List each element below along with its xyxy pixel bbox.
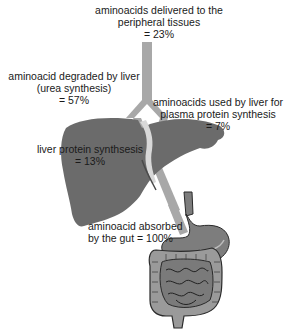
label-percent: = 57% [4, 94, 144, 106]
label-line: peripheral tissues [92, 16, 226, 28]
label-percent: = 23% [92, 28, 226, 40]
label-percent: by the gut = 100% [88, 232, 188, 244]
label-urea-synthesis: aminoacid degraded by liver (urea synthe… [4, 70, 144, 106]
label-line: (urea synthesis) [4, 82, 144, 94]
label-peripheral-tissues: aminoacids delivered to the peripheral t… [92, 4, 226, 40]
label-line: aminoacid degraded by liver [4, 70, 144, 82]
label-line: aminoacids delivered to the [92, 4, 226, 16]
diagram-canvas: aminoacids delivered to the peripheral t… [0, 0, 288, 331]
label-plasma-protein-synthesis: aminoacids used by liver for plasma prot… [148, 96, 288, 132]
label-liver-protein-synthesis: liver protein synthsesis = 13% [30, 143, 150, 167]
liver-icon [61, 118, 224, 226]
esophagus-icon [184, 192, 193, 216]
label-gut-absorption: aminoacid absorbed by the gut = 100% [88, 220, 188, 244]
label-line: plasma protein synthesis [148, 108, 288, 120]
label-line: aminoacids used by liver for [148, 96, 288, 108]
intestines-icon [149, 248, 222, 328]
label-line: aminoacid absorbed [88, 220, 188, 232]
label-percent: = 13% [30, 155, 150, 167]
label-percent: = 7% [148, 120, 288, 132]
label-line: liver protein synthsesis [30, 143, 150, 155]
